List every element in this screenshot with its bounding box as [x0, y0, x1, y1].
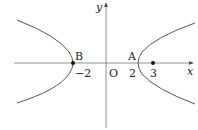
hyperbola-left-branch — [17, 20, 73, 103]
tick-label-three: 3 — [150, 67, 157, 80]
tick-label-two: 2 — [129, 67, 136, 80]
tick-label-neg-two: −2 — [75, 67, 91, 80]
origin-label: O — [109, 67, 118, 80]
y-axis-label: y — [95, 1, 103, 14]
label-b: B — [75, 50, 83, 63]
y-axis-arrow-icon — [104, 2, 108, 7]
point-three — [151, 61, 155, 65]
hyperbola-diagram: B A −2 O 2 3 x y — [0, 0, 198, 130]
label-a: A — [127, 50, 137, 63]
hyperbola-right-branch — [138, 23, 195, 104]
x-axis-label: x — [187, 65, 194, 78]
